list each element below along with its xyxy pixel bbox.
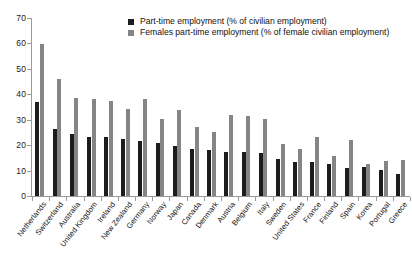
bar-part-time: [259, 153, 263, 196]
legend-label-females-part-time: Females part-time employment (% of femal…: [140, 27, 389, 38]
bar-females-part-time: [109, 101, 113, 196]
bar-part-time: [207, 150, 211, 196]
bar-females-part-time: [195, 127, 199, 196]
x-tick-mark: [376, 197, 377, 201]
y-tick-label: 40: [2, 89, 26, 99]
bar-part-time: [396, 174, 400, 196]
bar-females-part-time: [349, 140, 353, 196]
bar-group: [224, 18, 241, 196]
x-tick-mark: [307, 197, 308, 201]
bar-group: [396, 18, 412, 196]
bar-part-time: [345, 168, 349, 196]
bar-part-time: [362, 167, 366, 196]
bar-females-part-time: [177, 110, 181, 196]
bar-group: [293, 18, 310, 196]
bar-females-part-time: [298, 149, 302, 196]
x-tick-mark: [290, 197, 291, 201]
bar-part-time: [224, 152, 228, 196]
bar-group: [310, 18, 327, 196]
y-tick-label: 10: [2, 166, 26, 176]
x-tick-mark: [273, 197, 274, 201]
bar-group: [87, 18, 104, 196]
bar-females-part-time: [74, 98, 78, 196]
bar-group: [259, 18, 276, 196]
y-tick-label: 30: [2, 115, 26, 125]
legend-item-part-time: Part-time employment (% of civilian empl…: [128, 16, 412, 27]
x-tick-mark: [221, 197, 222, 201]
legend-item-females-part-time: Females part-time employment (% of femal…: [128, 27, 412, 38]
bar-females-part-time: [401, 160, 405, 196]
bar-chart: 010203040506070 NetherlandsSwitzerlandAu…: [0, 0, 412, 273]
x-tick-mark: [410, 197, 411, 201]
bar-group: [173, 18, 190, 196]
bar-part-time: [87, 137, 91, 196]
bar-group: [138, 18, 155, 196]
x-tick-mark: [255, 197, 256, 201]
bar-group: [70, 18, 87, 196]
bar-part-time: [310, 162, 314, 196]
x-tick-mark: [49, 197, 50, 201]
x-tick-mark: [187, 197, 188, 201]
bar-group: [121, 18, 138, 196]
bar-group: [362, 18, 379, 196]
bar-part-time: [173, 146, 177, 196]
y-tick-label: 50: [2, 64, 26, 74]
x-tick-mark: [152, 197, 153, 201]
bar-females-part-time: [384, 161, 388, 196]
bar-group: [379, 18, 396, 196]
bar-females-part-time: [212, 132, 216, 196]
x-tick-mark: [32, 197, 33, 201]
bar-part-time: [276, 159, 280, 196]
bar-part-time: [35, 102, 39, 196]
bar-part-time: [327, 164, 331, 196]
bar-group: [345, 18, 362, 196]
x-tick-mark: [118, 197, 119, 201]
bar-part-time: [156, 143, 160, 196]
y-tick-label: 60: [2, 38, 26, 48]
bar-females-part-time: [57, 79, 61, 196]
bar-part-time: [293, 162, 297, 196]
x-tick-mark: [135, 197, 136, 201]
chart-legend: Part-time employment (% of civilian empl…: [128, 16, 412, 38]
bar-group: [276, 18, 293, 196]
bar-part-time: [104, 137, 108, 196]
bar-females-part-time: [332, 156, 336, 196]
legend-label-part-time: Part-time employment (% of civilian empl…: [140, 16, 327, 27]
x-tick-mark: [101, 197, 102, 201]
x-tick-mark: [84, 197, 85, 201]
x-tick-mark: [358, 197, 359, 201]
bar-females-part-time: [366, 164, 370, 196]
x-tick-mark: [238, 197, 239, 201]
x-tick-mark: [341, 197, 342, 201]
legend-swatch-icon-dark: [128, 19, 134, 25]
bar-females-part-time: [40, 44, 44, 196]
bar-group: [35, 18, 52, 196]
bar-part-time: [70, 134, 74, 196]
x-tick-mark: [324, 197, 325, 201]
plot-area: [32, 18, 410, 196]
x-tick-mark: [393, 197, 394, 201]
bar-group: [156, 18, 173, 196]
bar-group: [190, 18, 207, 196]
bar-part-time: [53, 129, 57, 196]
bar-females-part-time: [281, 144, 285, 196]
bar-females-part-time: [160, 119, 164, 196]
x-tick-mark: [204, 197, 205, 201]
y-tick-label: 20: [2, 140, 26, 150]
x-tick-mark: [66, 197, 67, 201]
bar-group: [327, 18, 344, 196]
bar-group: [207, 18, 224, 196]
bar-part-time: [379, 170, 383, 196]
bar-females-part-time: [263, 119, 267, 196]
legend-swatch-icon-light: [128, 30, 134, 36]
bar-part-time: [190, 149, 194, 196]
bar-females-part-time: [92, 99, 96, 196]
bar-part-time: [121, 139, 125, 196]
x-tick-mark: [169, 197, 170, 201]
bar-females-part-time: [143, 99, 147, 196]
bar-group: [242, 18, 259, 196]
bar-part-time: [138, 141, 142, 196]
bar-part-time: [242, 152, 246, 196]
bar-group: [104, 18, 121, 196]
bar-group: [53, 18, 70, 196]
